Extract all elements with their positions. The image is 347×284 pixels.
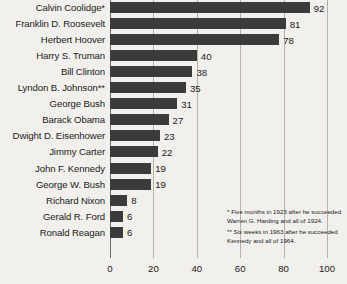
- bar: [110, 114, 169, 125]
- bar-category-label: Franklin D. Roosevelt: [0, 17, 105, 30]
- bar-row: Lyndon B. Johnson**35: [0, 80, 347, 96]
- bar-row: George W. Bush19: [0, 177, 347, 193]
- bar-value-label: 6: [127, 226, 132, 239]
- bar-category-label: George Bush: [0, 97, 105, 110]
- bar-value-label: 6: [127, 210, 132, 223]
- footnote: * Five months in 1923 after he succeeded…: [227, 208, 345, 225]
- bar-category-label: Ronald Reagan: [0, 226, 105, 239]
- bar-value-label: 92: [314, 2, 325, 15]
- bar-row: George Bush31: [0, 96, 347, 112]
- bar-category-label: Gerald R. Ford: [0, 210, 105, 223]
- bar-row: Herbert Hoover78: [0, 32, 347, 48]
- bar: [110, 34, 279, 45]
- bar-category-label: John F. Kennedy: [0, 162, 105, 175]
- bar-value-label: 19: [155, 162, 166, 175]
- bar: [110, 66, 192, 77]
- bar-value-label: 35: [190, 82, 201, 95]
- x-tick-label: 100: [319, 262, 335, 275]
- bar-row: Dwight D. Eisenhower23: [0, 128, 347, 144]
- bar-row: Franklin D. Roosevelt81: [0, 16, 347, 32]
- bar: [110, 211, 123, 222]
- bar: [110, 163, 151, 174]
- bar-row: Harry S. Truman40: [0, 48, 347, 64]
- bar-row: Richard Nixon8: [0, 193, 347, 209]
- bar: [110, 146, 158, 157]
- bar-value-label: 78: [283, 34, 294, 47]
- bar-category-label: Herbert Hoover: [0, 33, 105, 46]
- footnote: ** Six weeks in 1963 after he succeeded …: [227, 228, 345, 245]
- bar-value-label: 23: [164, 130, 175, 143]
- bar: [110, 227, 123, 238]
- bar-value-label: 38: [196, 66, 207, 79]
- bar-row: Jimmy Carter22: [0, 144, 347, 160]
- bar: [110, 18, 286, 29]
- bar-category-label: Harry S. Truman: [0, 49, 105, 62]
- x-tick-label: 60: [235, 262, 246, 275]
- bar: [110, 98, 177, 109]
- x-tick-label: 80: [278, 262, 289, 275]
- bar-value-label: 81: [290, 18, 301, 31]
- chart-footnotes: * Five months in 1923 after he succeeded…: [227, 208, 345, 245]
- bar-value-label: 27: [173, 114, 184, 127]
- bar-category-label: George W. Bush: [0, 178, 105, 191]
- x-tick-label: 20: [148, 262, 159, 275]
- bar-category-label: Calvin Coolidge*: [0, 1, 105, 14]
- bar-category-label: Bill Clinton: [0, 65, 105, 78]
- bar-value-label: 31: [181, 98, 192, 111]
- bar-row: Bill Clinton38: [0, 64, 347, 80]
- bar-value-label: 40: [201, 50, 212, 63]
- bar-value-label: 19: [155, 178, 166, 191]
- bar-category-label: Jimmy Carter: [0, 145, 105, 158]
- x-tick-label: 0: [107, 262, 112, 275]
- bar: [110, 50, 197, 61]
- bar: [110, 195, 127, 206]
- bar-row: Calvin Coolidge*92: [0, 0, 347, 16]
- bar-row: John F. Kennedy19: [0, 161, 347, 177]
- bar: [110, 82, 186, 93]
- bar-value-label: 22: [162, 146, 173, 159]
- bar-category-label: Dwight D. Eisenhower: [0, 129, 105, 142]
- x-tick-label: 40: [191, 262, 202, 275]
- bar-row: Barack Obama27: [0, 112, 347, 128]
- bar-category-label: Richard Nixon: [0, 194, 105, 207]
- x-axis: 020406080100: [110, 258, 327, 284]
- bar-category-label: Lyndon B. Johnson**: [0, 81, 105, 94]
- bar-category-label: Barack Obama: [0, 113, 105, 126]
- bar: [110, 130, 160, 141]
- bar: [110, 2, 310, 13]
- bar: [110, 179, 151, 190]
- bar-chart: Calvin Coolidge*92Franklin D. Roosevelt8…: [0, 0, 347, 284]
- bar-value-label: 8: [131, 194, 136, 207]
